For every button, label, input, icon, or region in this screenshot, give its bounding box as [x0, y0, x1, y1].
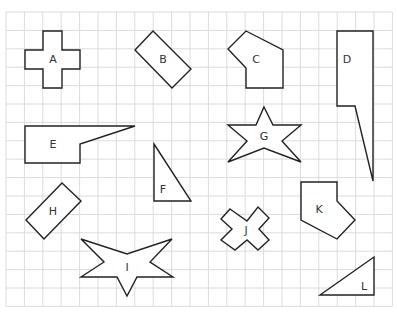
- shape-outline: [25, 126, 135, 163]
- shape-label: F: [160, 183, 166, 196]
- shape-label: E: [50, 138, 57, 151]
- shape-a: A: [25, 31, 80, 88]
- shape-label: D: [343, 53, 351, 66]
- shape-label: C: [252, 53, 260, 66]
- shape-label: H: [49, 205, 57, 218]
- shape-label: K: [315, 203, 323, 216]
- shape-g: G: [228, 107, 301, 162]
- shape-label: L: [361, 280, 368, 293]
- shape-label: G: [260, 130, 269, 143]
- shape-label: J: [243, 224, 247, 237]
- shape-h: H: [26, 183, 81, 239]
- shape-label: A: [49, 53, 57, 66]
- shape-i: I: [81, 239, 173, 296]
- shape-k: K: [301, 182, 355, 239]
- shape-l: L: [320, 257, 374, 295]
- shapes-diagram: ABCDEFGHIJKL: [0, 0, 397, 319]
- shape-b: B: [135, 31, 191, 88]
- shape-e: E: [25, 126, 135, 163]
- shape-label: I: [125, 261, 128, 274]
- shape-c: C: [228, 31, 283, 88]
- shape-f: F: [154, 144, 191, 201]
- shape-outline: [301, 182, 355, 239]
- shapes-layer: ABCDEFGHIJKL: [25, 31, 374, 296]
- shape-label: B: [159, 53, 167, 66]
- shape-d: D: [337, 31, 373, 181]
